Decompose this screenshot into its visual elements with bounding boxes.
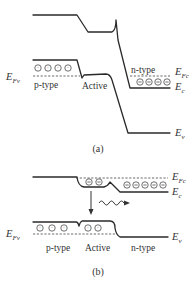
panel-b-Ec-label: Ec [171,186,182,200]
svg-text:·: · [97,225,99,231]
panel-b-p-holes: · · · [37,225,67,231]
panel-b: · · · · · p-type Active n-type EFv EFc E… [5,171,187,278]
panel-a: · · · · p-type Active n-type EFv EFc Ec … [5,15,190,155]
panel-b-p-type-label: p-type [46,243,70,253]
svg-text:·: · [51,225,53,231]
svg-text:·: · [87,225,89,231]
panel-a-holes: · · · · [35,65,71,71]
panel-b-active-holes: · · [85,225,101,231]
panel-a-conduction-band [33,15,170,88]
panel-a-caption: (a) [92,143,103,155]
panel-b-n-type-label: n-type [131,243,155,253]
panel-a-Ec-label: Ec [174,81,185,95]
panel-a-EFv-label: EFv [5,71,21,85]
panel-a-n-type-label: n-type [131,65,155,75]
svg-text:·: · [47,65,49,71]
panel-a-electrons [137,79,170,85]
panel-b-active-label: Active [85,243,110,253]
panel-b-EFc-label: EFc [171,171,187,185]
band-diagram-figure: · · · · p-type Active n-type EFv EFc Ec … [0,0,196,288]
photon-wave-icon [99,201,130,206]
recombination-arrow-icon [89,191,94,215]
panel-b-caption: (b) [92,266,104,278]
panel-a-p-type-label: p-type [34,80,58,90]
panel-a-Ev-label: Ev [174,127,185,141]
panel-a-EFc-label: EFc [174,66,190,80]
panel-a-active-label: Active [82,81,107,91]
svg-text:·: · [63,225,65,231]
svg-text:·: · [67,65,69,71]
panel-b-active-electrons [86,179,102,185]
panel-b-n-electrons [124,182,166,188]
panel-b-Ev-label: Ev [171,231,182,245]
svg-text:·: · [57,65,59,71]
panel-b-EFv-label: EFv [5,228,21,242]
svg-text:·: · [37,65,39,71]
svg-text:·: · [39,225,41,231]
